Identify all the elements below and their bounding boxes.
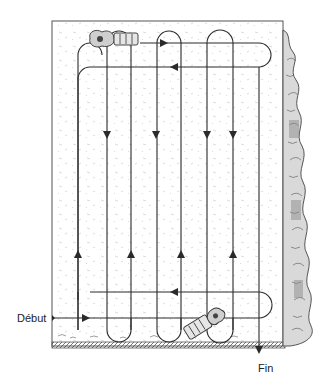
start-label: Début	[17, 312, 46, 324]
lawn-texture	[53, 22, 282, 342]
end-label: Fin	[258, 362, 273, 374]
arrow-down-icon	[255, 346, 263, 354]
mowing-diagram	[0, 0, 335, 389]
hedge-icon	[283, 30, 312, 346]
